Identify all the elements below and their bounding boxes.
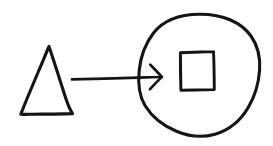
diagram-svg [0,0,273,146]
sketch-canvas [0,0,273,146]
